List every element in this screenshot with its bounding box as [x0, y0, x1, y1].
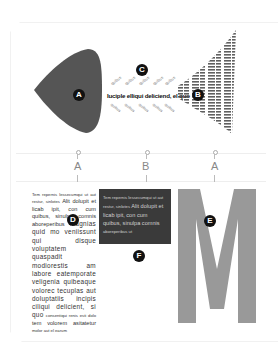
column-b-dark-box: Tem repernis lessecumqui ut aut restur, … — [99, 189, 171, 244]
column-b-tail-small: aboreperibus ut — [103, 229, 132, 234]
column-a-tail-small-2: molor aut el earum — [32, 328, 67, 333]
marker-b-line-bottom — [146, 175, 147, 182]
marker-b-line — [146, 154, 147, 159]
column-a-body-2: magnias quid mo veniissunt qui disque vo… — [32, 220, 96, 318]
badge-f: F — [133, 250, 145, 262]
column-b-small-line: Tem repernis lessecumqui ut aut — [103, 195, 163, 200]
column-label-a2: A — [211, 160, 218, 172]
marker-a2-line-bottom — [214, 175, 215, 182]
column-a-tail: tem volorem asitatetur — [32, 320, 96, 326]
column-a-tail-small: consentiqui renis esti dolo — [46, 313, 96, 318]
column-label-a1: A — [74, 160, 81, 172]
column-a-small-line: Tem repernis lessecumqui ut aut — [32, 192, 96, 197]
divider-bottom — [16, 181, 266, 182]
column-a-text: Tem repernis lessecumqui ut aut restur, … — [32, 191, 96, 334]
column-b-small-line-2: restur, sinlotes — [103, 204, 130, 209]
column-a-small-line-2: restur, sinlotes — [32, 199, 60, 204]
marker-a-line — [77, 154, 78, 159]
badge-e: E — [204, 215, 216, 227]
badge-d: D — [67, 214, 79, 226]
column-label-b: B — [142, 160, 149, 172]
marker-a-line-bottom — [77, 175, 78, 182]
big-letter-m — [178, 189, 256, 323]
badge-b: B — [192, 89, 204, 101]
marker-a2-line — [214, 154, 215, 159]
divider-top — [16, 153, 266, 154]
